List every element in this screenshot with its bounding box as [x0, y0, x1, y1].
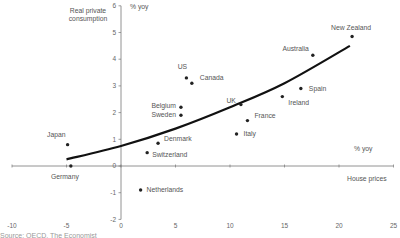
data-point-label: Belgium — [151, 102, 176, 110]
y-tick-label: 4 — [112, 55, 116, 62]
y-tick-label: 5 — [112, 29, 116, 36]
data-point-label: France — [254, 112, 275, 119]
scatter-chart: -10-50510152025-2-10123456 JapanGermanyN… — [0, 0, 400, 238]
x-tick-label: -5 — [64, 222, 70, 229]
data-point-label: Ireland — [288, 99, 309, 106]
data-point-label: New Zealand — [331, 24, 371, 31]
data-point-marker — [66, 143, 69, 146]
y-axis-unit: % yoy — [130, 3, 149, 11]
data-point-marker — [299, 87, 302, 90]
x-tick-label: 0 — [119, 222, 123, 229]
x-tick-label: -10 — [7, 222, 17, 229]
data-point-marker — [350, 35, 353, 38]
data-point-label: Switzerland — [152, 151, 187, 158]
data-point-marker — [246, 119, 249, 122]
x-tick-label: 15 — [281, 222, 289, 229]
x-axis-title: House prices — [347, 175, 387, 183]
y-tick-label: 2 — [112, 109, 116, 116]
data-point-label: UK — [226, 97, 236, 104]
x-tick-label: 10 — [226, 222, 234, 229]
source-note: Source: OECD, The Economist — [0, 232, 97, 238]
data-point-label: Australia — [282, 45, 309, 52]
y-tick-label: 0 — [112, 162, 116, 169]
x-tick-label: 5 — [174, 222, 178, 229]
data-point-marker — [239, 103, 242, 106]
data-point-label: Sweden — [151, 111, 176, 118]
data-point-marker — [145, 151, 148, 154]
data-point-marker — [69, 164, 72, 167]
data-point-marker — [139, 188, 142, 191]
data-point-marker — [185, 76, 188, 79]
axes: -10-50510152025-2-10123456 — [7, 2, 397, 229]
x-tick-label: 20 — [335, 222, 343, 229]
x-axis-unit: % yoy — [354, 145, 373, 153]
y-tick-label: 1 — [112, 136, 116, 143]
y-tick-label: 6 — [112, 2, 116, 9]
y-tick-label: -1 — [110, 189, 116, 196]
data-points: JapanGermanyNetherlandsSwitzerlandDenmar… — [47, 24, 371, 194]
data-point-label: Japan — [47, 131, 66, 139]
data-point-marker — [311, 53, 314, 56]
data-point-marker — [281, 95, 284, 98]
data-point-label: Canada — [200, 74, 224, 81]
data-point-label: US — [178, 63, 188, 70]
data-point-marker — [179, 106, 182, 109]
data-point-label: Italy — [244, 130, 257, 138]
x-tick-label: 25 — [390, 222, 398, 229]
y-tick-label: 3 — [112, 82, 116, 89]
y-axis-title-line1: Real private — [70, 7, 106, 15]
data-point-marker — [156, 142, 159, 145]
data-point-marker — [190, 82, 193, 85]
data-point-label: Netherlands — [147, 186, 184, 193]
data-point-label: Spain — [309, 85, 327, 93]
y-tick-label: -2 — [110, 216, 116, 223]
data-point-label: Germany — [51, 173, 80, 181]
data-point-label: Denmark — [164, 135, 192, 142]
data-point-marker — [179, 114, 182, 117]
data-point-marker — [235, 132, 238, 135]
y-axis-title-line2: consumption — [69, 15, 108, 23]
